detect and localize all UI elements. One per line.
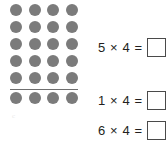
answer-box[interactable] <box>147 91 166 110</box>
faint-pencil-mark: c <box>12 113 17 119</box>
array-dot <box>66 55 78 67</box>
array-dot <box>29 55 41 67</box>
array-dot <box>10 92 22 104</box>
array-dot <box>10 72 22 84</box>
array-dot <box>47 38 59 50</box>
dot-row <box>10 37 78 50</box>
array-dot <box>66 4 78 16</box>
array-dot <box>10 21 22 33</box>
array-dot <box>47 72 59 84</box>
equation-row-1: 5 × 4 = <box>98 36 166 58</box>
equation-expression: 6 × 4 = <box>98 123 143 138</box>
array-dot <box>47 55 59 67</box>
dot-row <box>10 54 78 67</box>
array-dot <box>29 21 41 33</box>
answer-box[interactable] <box>147 38 166 57</box>
array-dot <box>47 21 59 33</box>
array-dot <box>29 92 41 104</box>
array-dot <box>47 92 59 104</box>
array-divider-line <box>10 89 78 90</box>
array-dot <box>66 72 78 84</box>
array-dot <box>66 38 78 50</box>
dot-row <box>10 71 78 84</box>
equation-expression: 1 × 4 = <box>98 93 143 108</box>
array-dot <box>66 92 78 104</box>
equation-expression: 5 × 4 = <box>98 40 143 55</box>
answer-box[interactable] <box>147 121 166 140</box>
worksheet-canvas: c 5 × 4 = 1 × 4 = 6 × 4 = <box>0 0 168 148</box>
array-dot <box>29 38 41 50</box>
array-dot <box>47 4 59 16</box>
dot-row <box>10 20 78 33</box>
array-dot <box>66 21 78 33</box>
dot-row <box>10 3 78 16</box>
array-dot <box>10 38 22 50</box>
dot-array: c <box>10 3 78 103</box>
array-dot <box>10 4 22 16</box>
dot-row <box>10 91 78 104</box>
equation-row-2: 1 × 4 = <box>98 89 166 111</box>
array-dot <box>29 4 41 16</box>
array-dot <box>29 72 41 84</box>
array-dot <box>10 55 22 67</box>
equation-row-3: 6 × 4 = <box>98 119 166 141</box>
